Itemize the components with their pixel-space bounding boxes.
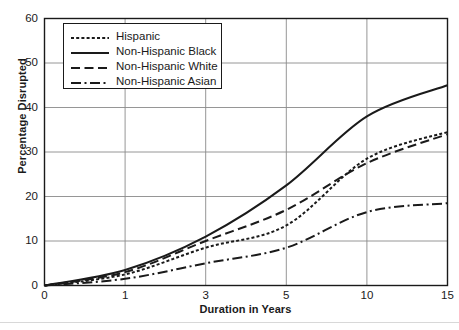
series-line-non-hispanic-asian xyxy=(45,203,448,285)
page-separator-rule xyxy=(0,322,459,323)
legend-line-sample-icon xyxy=(70,60,110,72)
x-tick-label: 0 xyxy=(25,290,65,302)
x-tick-label: 10 xyxy=(347,290,387,302)
x-tick-label: 1 xyxy=(105,290,145,302)
x-tick-label: 3 xyxy=(186,290,226,302)
legend-line-sample-icon xyxy=(70,45,110,57)
legend-label: Non-Hispanic Black xyxy=(116,45,216,57)
legend-label: Non-Hispanic Asian xyxy=(116,75,216,87)
series-line-non-hispanic-black xyxy=(45,85,448,285)
legend-item-non-hispanic-asian: Non-Hispanic Asian xyxy=(64,73,221,88)
chart-legend: HispanicNon-Hispanic BlackNon-Hispanic W… xyxy=(63,23,222,89)
legend-label: Non-Hispanic White xyxy=(116,60,218,72)
series-line-non-hispanic-white xyxy=(45,134,448,285)
legend-item-hispanic: Hispanic xyxy=(64,28,221,43)
chart-figure: Percentage Disrupted 0102030405060 Hispa… xyxy=(0,0,459,330)
legend-line-sample-icon xyxy=(70,75,110,87)
x-tick-label: 15 xyxy=(428,290,459,302)
x-tick-label: 5 xyxy=(266,290,306,302)
legend-line-sample-icon xyxy=(70,30,110,42)
legend-item-non-hispanic-black: Non-Hispanic Black xyxy=(64,43,221,58)
x-axis-title: Duration in Years xyxy=(44,303,447,315)
legend-label: Hispanic xyxy=(116,30,160,42)
data-series-lines xyxy=(45,85,448,285)
legend-item-non-hispanic-white: Non-Hispanic White xyxy=(64,58,221,73)
